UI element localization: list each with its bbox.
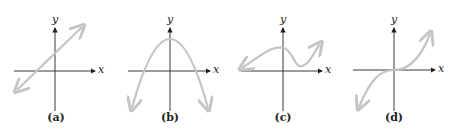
panel-c-curve [242, 44, 320, 68]
panel-d-label: (d) [385, 111, 403, 124]
panel-a-x-label: x [98, 63, 104, 76]
panel-b-y-label: y [167, 13, 173, 26]
panel-a-curve [17, 27, 82, 90]
panel-c-axes [241, 28, 322, 111]
panel-b-label: (b) [161, 111, 179, 124]
panel-d-curve [359, 34, 430, 107]
panel-d-y-label: y [391, 13, 397, 26]
panel-a-y-label: y [52, 13, 58, 26]
panel-c-label: (c) [274, 111, 291, 124]
panel-c-y-label: y [280, 13, 286, 26]
panel-d-x-label: x [438, 62, 444, 75]
panel-b-x-label: x [213, 63, 219, 76]
panel-a-axes [14, 28, 95, 111]
panel-c-x-label: x [325, 63, 331, 76]
graph-panels: y x (a) y x (b) y x (c) y x (d) [0, 0, 453, 133]
panel-a-label: (a) [47, 111, 65, 124]
panel-b-axes [128, 28, 210, 111]
